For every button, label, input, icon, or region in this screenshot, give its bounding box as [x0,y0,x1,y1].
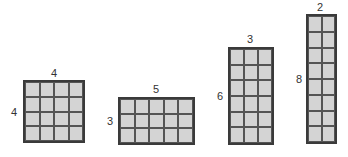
unit-square [135,128,150,143]
unit-square [25,82,40,97]
unit-square [308,16,322,32]
unit-square [308,111,322,127]
unit-square [54,126,69,141]
unit-square [120,128,135,143]
unit-square [244,80,258,96]
unit-square [308,32,322,48]
rect-5x3-width-label: 5 [153,84,159,95]
unit-square [258,65,272,81]
unit-square [54,82,69,97]
unit-square [322,63,336,79]
rect-4x4-height-label: 4 [11,107,17,118]
unit-square [25,112,40,127]
rect-2x8-height-label: 8 [296,74,302,85]
unit-square [258,80,272,96]
unit-square [69,97,84,112]
unit-square [230,96,244,112]
unit-square [230,112,244,128]
unit-square [322,16,336,32]
unit-square [230,80,244,96]
rect-3x6-width-label: 3 [247,34,253,45]
unit-square [178,128,193,143]
unit-square [258,112,272,128]
unit-square [54,112,69,127]
unit-square [322,111,336,127]
unit-square [178,114,193,129]
unit-square [25,126,40,141]
unit-square [164,99,179,114]
unit-square [164,128,179,143]
unit-square [40,126,55,141]
unit-square [322,126,336,142]
unit-square [258,96,272,112]
unit-square [69,112,84,127]
rect-2x8-grid [306,14,337,144]
unit-square [230,49,244,65]
unit-square [149,99,164,114]
unit-square [308,63,322,79]
unit-square [149,128,164,143]
unit-square [54,97,69,112]
unit-square [120,114,135,129]
unit-square [164,114,179,129]
unit-square [308,95,322,111]
unit-square [40,112,55,127]
unit-square [322,95,336,111]
rect-5x3-height-label: 3 [107,116,113,127]
unit-square [135,99,150,114]
unit-square [120,99,135,114]
unit-square [322,48,336,64]
rect-3x6-grid [228,47,274,145]
unit-square [69,82,84,97]
unit-square [244,112,258,128]
unit-square [40,97,55,112]
unit-square [258,49,272,65]
unit-square [244,49,258,65]
unit-square [230,127,244,143]
rect-5x3-grid [118,97,195,145]
unit-square [258,127,272,143]
rect-3x6-height-label: 6 [217,91,223,102]
rect-2x8-width-label: 2 [317,2,323,13]
unit-square [322,32,336,48]
unit-square [322,79,336,95]
unit-square [308,48,322,64]
unit-square [308,126,322,142]
unit-square [149,114,164,129]
rect-4x4-grid [23,80,85,143]
unit-square [230,65,244,81]
unit-square [244,96,258,112]
unit-square [69,126,84,141]
unit-square [244,127,258,143]
unit-square [178,99,193,114]
unit-square [25,97,40,112]
unit-square [244,65,258,81]
rect-4x4-width-label: 4 [51,68,57,79]
unit-square [135,114,150,129]
unit-square [308,79,322,95]
unit-square [40,82,55,97]
